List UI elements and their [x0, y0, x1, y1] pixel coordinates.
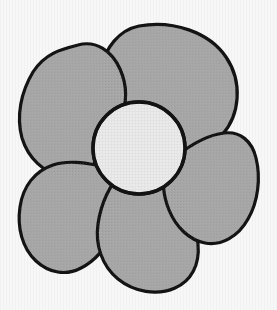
flower-illustration: [0, 0, 277, 310]
flower-center[interactable]: [93, 102, 185, 194]
flower-center-texture: [95, 104, 184, 193]
drawing-canvas: [0, 0, 277, 310]
